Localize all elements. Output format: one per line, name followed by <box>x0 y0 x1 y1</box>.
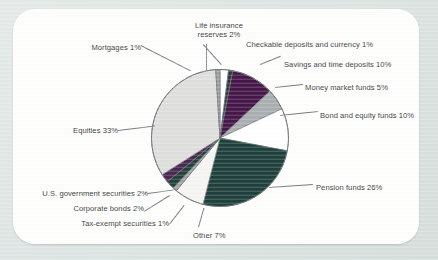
chart-card: Life insurance reserves 2% Mortgages 1% … <box>13 9 419 244</box>
label-mortgages: Mortgages 1% <box>67 43 141 52</box>
label-checkable: Checkable deposits and currency 1% <box>246 40 373 49</box>
label-other: Other 7% <box>193 231 225 240</box>
pie-slice-group <box>152 70 289 207</box>
label-equities: Equities 33% <box>46 126 118 135</box>
label-money-market: Money market funds 5% <box>305 83 388 92</box>
label-savings: Savings and time deposits 10% <box>284 60 391 69</box>
label-corporate: Corporate bonds 2% <box>58 204 144 213</box>
label-us-gov: U.S. government securities 2% <box>20 189 148 198</box>
screenshot-root: Life insurance reserves 2% Mortgages 1% … <box>0 0 438 260</box>
label-tax-exempt: Tax-exempt securities 1% <box>58 219 169 228</box>
label-pension: Pension funds 26% <box>316 183 382 192</box>
label-bond-equity: Bond and equity funds 10% <box>320 111 414 120</box>
label-life-insurance: Life insurance reserves 2% <box>182 21 256 40</box>
